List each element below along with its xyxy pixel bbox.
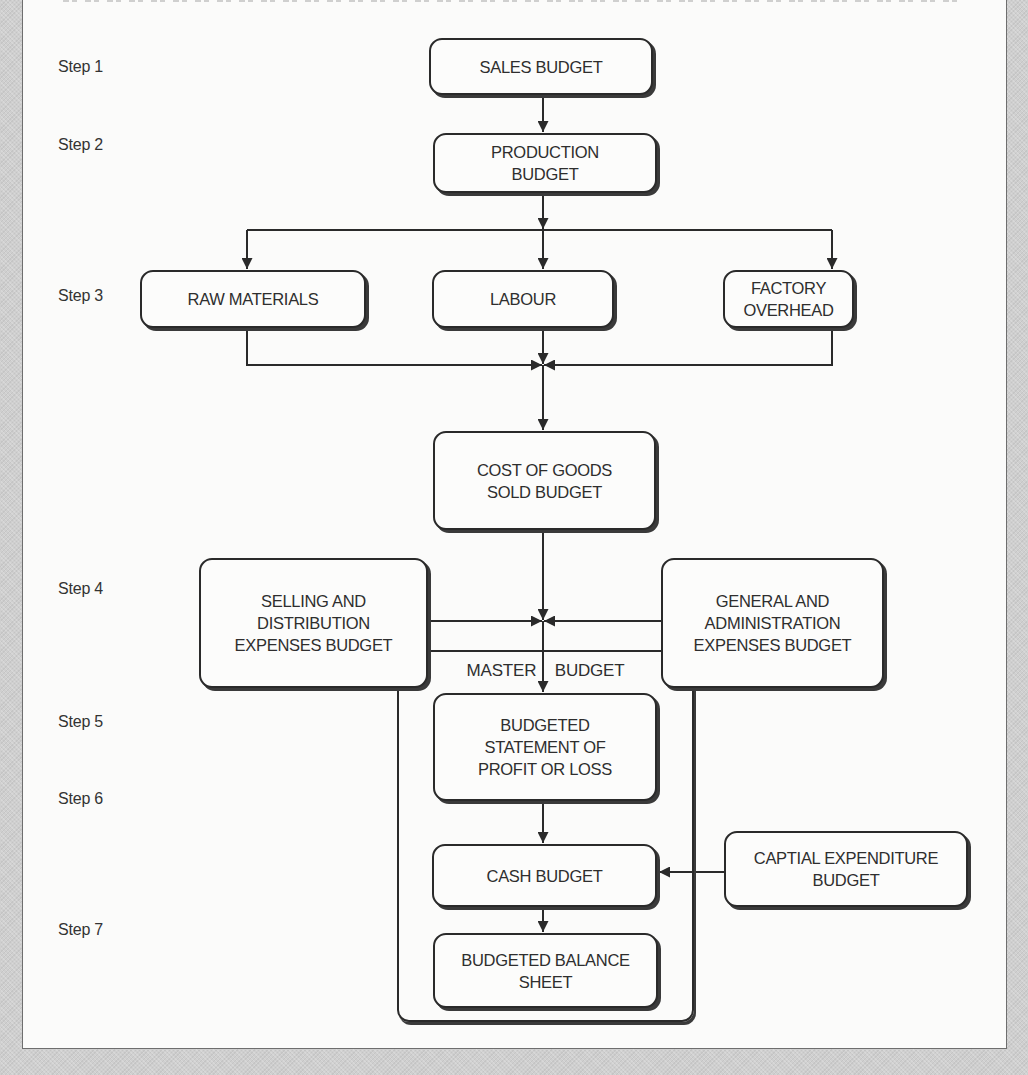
- step-label-4: Step 4: [58, 579, 103, 599]
- node-capital-expenditure-budget: CAPTIAL EXPENDITURE BUDGET: [724, 831, 968, 907]
- node-profit-loss-statement: BUDGETED STATEMENT OF PROFIT OR LOSS: [433, 693, 657, 801]
- node-labour: LABOUR: [432, 270, 614, 328]
- step-label-3: Step 3: [58, 286, 103, 306]
- step-label-1: Step 1: [58, 57, 103, 77]
- node-sales-budget: SALES BUDGET: [429, 38, 653, 95]
- master-budget-label: MASTER BUDGET: [397, 661, 694, 681]
- step-label-5: Step 5: [58, 712, 103, 732]
- cropped-text-line: [23, 0, 1006, 2]
- node-raw-materials: RAW MATERIALS: [140, 270, 366, 328]
- step-label-7: Step 7: [58, 920, 103, 940]
- step-label-2: Step 2: [58, 135, 103, 155]
- node-general-admin-budget: GENERAL AND ADMINISTRATION EXPENSES BUDG…: [661, 558, 884, 688]
- node-production-budget: PRODUCTION BUDGET: [433, 133, 657, 193]
- step-label-6: Step 6: [58, 789, 103, 809]
- node-cash-budget: CASH BUDGET: [432, 844, 657, 907]
- node-cogs-budget: COST OF GOODS SOLD BUDGET: [433, 431, 656, 530]
- node-selling-distribution-budget: SELLING AND DISTRIBUTION EXPENSES BUDGET: [199, 558, 428, 688]
- node-balance-sheet: BUDGETED BALANCE SHEET: [433, 933, 658, 1008]
- node-factory-overhead: FACTORY OVERHEAD: [723, 270, 854, 328]
